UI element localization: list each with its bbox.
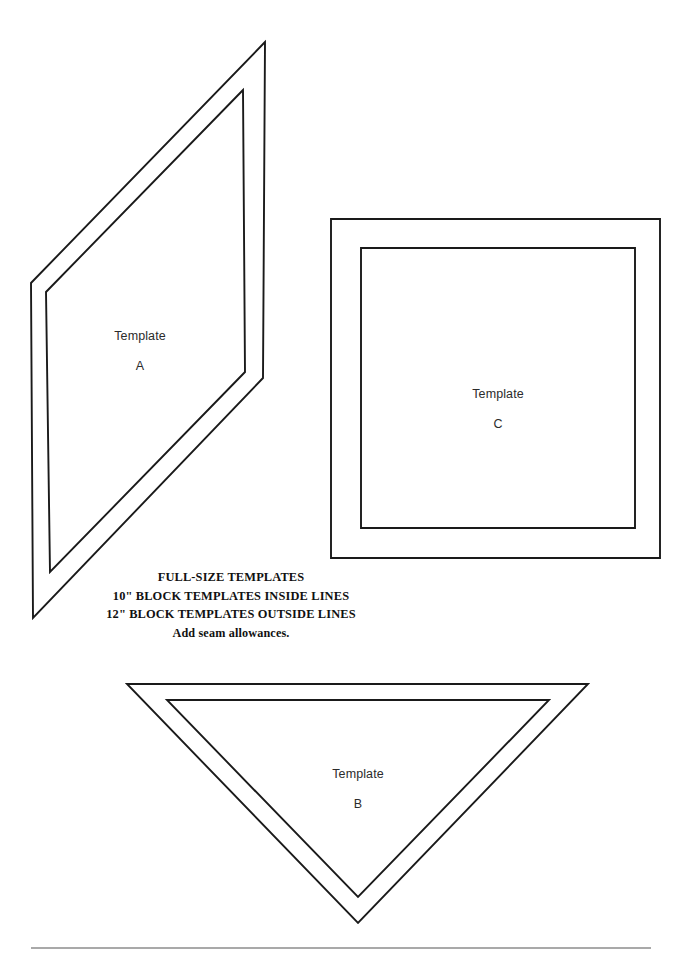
instructions-line-1: FULL-SIZE TEMPLATES [91, 568, 371, 587]
template-a-outer-outline [31, 42, 265, 618]
instructions-line-4: Add seam allowances. [91, 624, 371, 643]
template-sheet: Template A Template C Template B FULL-SI… [0, 0, 682, 971]
instructions-line-3: 12" BLOCK TEMPLATES OUTSIDE LINES [91, 605, 371, 624]
template-shapes-svg [0, 0, 682, 971]
template-c-outer-outline [331, 219, 660, 558]
instructions-block: FULL-SIZE TEMPLATES 10" BLOCK TEMPLATES … [91, 568, 371, 642]
template-b-outer-outline [127, 684, 588, 923]
instructions-line-2: 10" BLOCK TEMPLATES INSIDE LINES [91, 587, 371, 606]
